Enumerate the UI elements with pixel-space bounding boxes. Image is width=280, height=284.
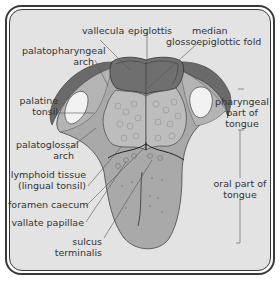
label-palatopharyngeal-line1: palatopharyngeal: [22, 45, 94, 56]
label-vallate-papillae: vallate papillae: [8, 217, 84, 228]
label-palatoglossal-line2: arch: [16, 150, 74, 161]
label-vallecula: vallecula: [82, 25, 124, 36]
label-sulcus-line2: terminalis: [50, 247, 102, 258]
label-lymphoid-line1: lymphoid tissue: [10, 169, 86, 180]
label-foramen-caecum: foramen caecum: [8, 199, 84, 210]
label-palatopharyngeal-line2: arch: [22, 56, 94, 67]
label-epiglottis: epiglottis: [128, 25, 172, 36]
label-oral-part-line2: tongue: [210, 189, 270, 200]
label-pharyngeal-part-line3: tongue: [214, 118, 270, 129]
label-palatoglossal-line1: palatoglossal: [16, 139, 74, 150]
label-oral-part-line1: oral part of: [210, 178, 270, 189]
label-median-fold-line2: glossoepiglottic fold: [166, 36, 261, 47]
epiglottis: [110, 57, 184, 94]
label-palatine-line2: tonsil: [16, 106, 58, 117]
label-median-fold-line1: median: [192, 25, 228, 36]
label-pharyngeal-part-line1: pharyngeal: [214, 96, 270, 107]
label-pharyngeal-part-line2: part of: [214, 107, 270, 118]
label-sulcus-line1: sulcus: [50, 236, 102, 247]
label-lymphoid-line2: (lingual tonsil): [10, 180, 86, 191]
label-palatine-line1: palatine: [16, 95, 58, 106]
